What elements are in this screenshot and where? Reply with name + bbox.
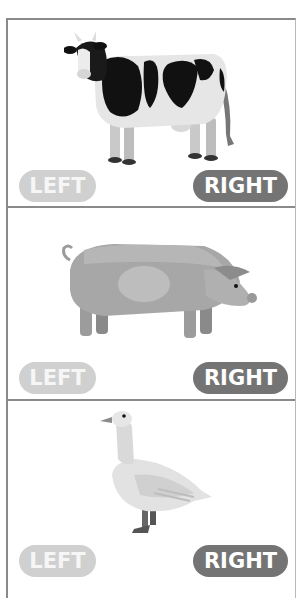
pig-illustration-icon (54, 234, 260, 344)
left-button[interactable]: LEFT (19, 362, 96, 394)
animal-card-pig: LEFT RIGHT (8, 208, 295, 401)
card-list-frame: LEFT RIGHT LEFT RIGHT (6, 18, 296, 598)
animal-card-cow: LEFT RIGHT (8, 20, 295, 208)
cow-illustration-icon (64, 26, 248, 166)
right-button[interactable]: RIGHT (193, 170, 288, 202)
left-button[interactable]: LEFT (19, 170, 96, 202)
right-button[interactable]: RIGHT (193, 545, 288, 577)
left-button[interactable]: LEFT (19, 545, 96, 577)
animal-card-goose: LEFT RIGHT (8, 401, 295, 601)
right-button[interactable]: RIGHT (193, 362, 288, 394)
goose-illustration-icon (94, 405, 218, 535)
